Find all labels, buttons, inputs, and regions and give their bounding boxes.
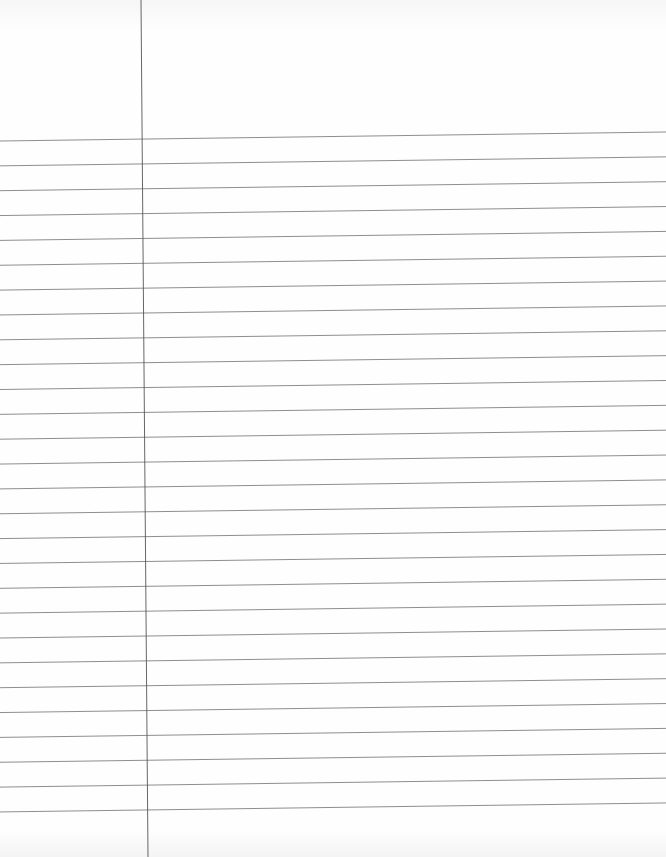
ruled-line <box>0 753 666 762</box>
ruled-line <box>0 530 666 539</box>
ruled-line <box>0 157 666 166</box>
ruled-line <box>0 704 666 713</box>
ruled-line <box>0 430 666 439</box>
ruled-line <box>0 132 666 141</box>
ruled-line <box>0 306 666 315</box>
ruled-line <box>0 803 666 812</box>
ruled-line <box>0 281 666 290</box>
paper-rules <box>0 0 666 857</box>
ruled-line <box>0 505 666 514</box>
ruled-line <box>0 182 666 191</box>
lined-paper-sheet <box>0 0 666 857</box>
ruled-line <box>0 331 666 340</box>
ruled-line <box>0 579 666 588</box>
ruled-line <box>0 728 666 737</box>
ruled-line <box>0 356 666 365</box>
margin-line <box>141 0 148 857</box>
ruled-line <box>0 554 666 563</box>
ruled-line <box>0 231 666 240</box>
ruled-line <box>0 455 666 464</box>
ruled-line <box>0 381 666 390</box>
ruled-line <box>0 604 666 613</box>
ruled-line <box>0 778 666 787</box>
ruled-line <box>0 256 666 265</box>
ruled-line <box>0 480 666 489</box>
ruled-line <box>0 405 666 414</box>
ruled-line <box>0 629 666 638</box>
ruled-lines <box>0 132 666 812</box>
ruled-line <box>0 654 666 663</box>
ruled-line <box>0 679 666 688</box>
ruled-line <box>0 207 666 216</box>
